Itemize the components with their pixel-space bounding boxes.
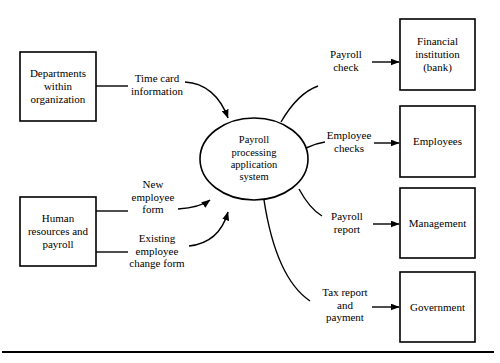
entity-box-government <box>400 272 475 342</box>
flow-arrow-existing-employee-change-form <box>189 212 228 246</box>
flow-label-existing-employee-change-form: Existing employee change form <box>125 232 189 270</box>
flow-label-payroll-check: Payroll check <box>320 48 372 73</box>
flow-arrow-time-card-information <box>185 82 228 118</box>
process-ellipse <box>200 118 308 200</box>
flow-label-time-card-information-text: Time card information <box>131 72 183 97</box>
entity-box-financial-institution <box>400 19 475 90</box>
entity-box-departments <box>20 52 96 121</box>
flow-curve-payroll-check <box>281 86 318 122</box>
flow-label-employee-checks: Employee checks <box>323 129 375 154</box>
entity-box-management <box>400 188 475 258</box>
flow-label-payroll-check-text: Payroll check <box>330 48 362 73</box>
flow-label-new-employee-form-text: New employee form <box>132 178 175 215</box>
flow-arrow-new-employee-form <box>178 200 210 209</box>
dfd-canvas <box>0 0 500 363</box>
flow-label-payroll-report-text: Payroll report <box>331 210 363 235</box>
entity-box-human-resources <box>20 197 96 266</box>
flow-label-tax-report-and-payment-text: Tax report and payment <box>322 286 367 323</box>
flow-label-tax-report-and-payment: Tax report and payment <box>318 286 372 324</box>
dfd-figure: Departments within organization Human re… <box>0 0 500 363</box>
flow-label-payroll-report: Payroll report <box>321 210 373 235</box>
flow-label-time-card-information: Time card information <box>128 72 186 97</box>
flow-curve-payroll-report <box>299 189 322 216</box>
flow-label-employee-checks-text: Employee checks <box>327 129 372 154</box>
flow-curve-tax-report-and-payment <box>264 200 310 301</box>
flow-label-existing-employee-change-form-text: Existing employee change form <box>129 232 184 269</box>
entity-box-employees <box>400 106 475 177</box>
flow-label-new-employee-form: New employee form <box>128 178 178 216</box>
